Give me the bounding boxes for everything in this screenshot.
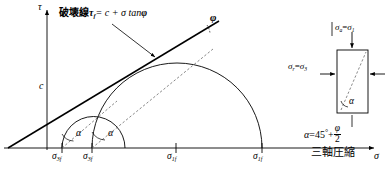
sigma1f-right-subscript: 1f	[258, 156, 263, 162]
cohesion-label: c	[39, 81, 43, 91]
sigma3f-left-label: σ3f	[52, 152, 61, 163]
annotation-leader-line	[112, 24, 155, 57]
axial-stress-sigma1-subscript: 1	[352, 27, 355, 33]
sigma1f-mid-label: σ1f	[167, 152, 176, 163]
failure-line-annotation: 破壊線τf= c + σ tanφ	[59, 8, 147, 19]
alpha-formula-value: 45	[315, 129, 325, 140]
specimen-alpha-label: α	[349, 97, 354, 107]
figure-canvas: τ σ 破壊線τf= c + σ tanφ φ c α α σ3f σ3f σ1…	[0, 0, 386, 172]
alpha-formula-fraction-denominator: 2	[334, 135, 341, 145]
alpha-label-large-circle: α	[108, 128, 113, 138]
sigma1f-right-label: σ1f	[253, 152, 262, 163]
specimen-group	[320, 22, 385, 127]
tau-axis-label: τ	[38, 2, 42, 12]
sigma-axis-label: σ	[374, 151, 379, 161]
alpha-label-small-circle: α	[76, 128, 81, 138]
axial-stress-label: σa=σ1	[335, 23, 355, 33]
alpha-formula-fraction: φ2	[334, 124, 341, 145]
sigma3f-left-subscript: 3f	[57, 156, 62, 162]
failure-line-equation-phi: φ	[141, 7, 147, 18]
sigma1f-mid-subscript: 1f	[172, 156, 177, 162]
failure-line-equation-body: = c + σ tan	[96, 7, 142, 18]
sigma3f-right-label: σ3f	[83, 152, 92, 163]
alpha-formula-label: α=45°+φ2	[304, 124, 341, 145]
radial-stress-label: σr=σ3	[288, 62, 307, 72]
failure-line-annotation-cjk: 破壊線	[59, 7, 89, 18]
mohr-circle-large	[92, 63, 262, 148]
specimen-caption: 三軸圧縮	[311, 147, 355, 158]
sigma3f-right-subscript: 3f	[88, 156, 93, 162]
phi-angle-label: φ	[210, 12, 216, 23]
mohr-circle-small-failure-chord	[62, 101, 117, 148]
radial-stress-sigma3-subscript: 3	[304, 66, 307, 72]
